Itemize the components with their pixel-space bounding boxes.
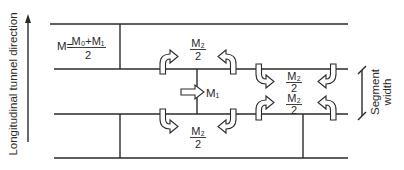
curved-arrow-icon	[256, 64, 274, 88]
svg-text:M₂: M₂	[287, 70, 300, 82]
svg-text:M₂: M₂	[191, 37, 204, 49]
svg-text:2: 2	[291, 104, 297, 116]
svg-text:M₀+M₁: M₀+M₁	[71, 35, 104, 47]
moment-formula: M= M₀+M₁ 2	[57, 35, 106, 61]
segment-width-bracket	[358, 66, 366, 120]
curved-arrow-icon	[218, 50, 236, 74]
axis-label: Longitudinal tunnel direction	[7, 12, 19, 155]
m2-half-label-right-lower: M₂ 2	[286, 92, 302, 116]
svg-text:M₂: M₂	[287, 92, 300, 104]
curved-arrow-icon	[256, 96, 274, 120]
m2-half-label-bottom: M₂ 2	[190, 125, 206, 150]
tunnel-moment-diagram: Longitudinal tunnel direction M= M₀+M₁ 2…	[0, 0, 404, 170]
svg-text:Segment: Segment	[369, 68, 381, 115]
svg-text:2: 2	[195, 50, 201, 62]
segment-width-label: Segment width	[369, 68, 393, 115]
svg-text:M₁: M₁	[206, 87, 220, 99]
m2-half-label-right-upper: M₂ 2	[286, 70, 302, 94]
curved-arrow-icon	[218, 109, 236, 133]
svg-text:width: width	[381, 79, 393, 107]
svg-text:2: 2	[85, 49, 91, 61]
longitudinal-direction-arrow	[25, 14, 31, 142]
curved-arrow-icon	[160, 109, 178, 133]
curved-arrow-icon	[160, 50, 178, 74]
curved-arrow-icon	[318, 64, 336, 88]
m2-half-label-top: M₂ 2	[190, 37, 206, 62]
m1-arrow: M₁	[181, 85, 220, 99]
curved-arrow-icon	[318, 96, 336, 120]
svg-text:2: 2	[195, 138, 201, 150]
svg-text:M₂: M₂	[191, 125, 204, 137]
